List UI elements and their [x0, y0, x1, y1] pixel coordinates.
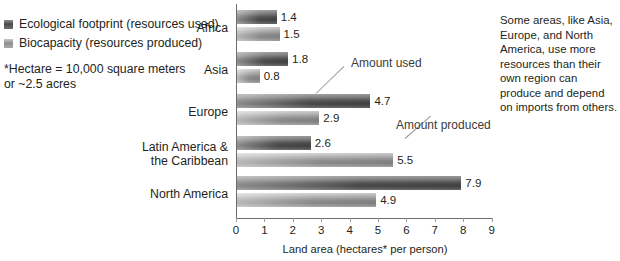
category-label: North America — [78, 187, 228, 201]
bar-resources-used: 1.8 — [237, 52, 288, 66]
bar-value-label: 0.8 — [264, 70, 280, 82]
callout-amount-used: Amount used — [351, 56, 422, 70]
x-axis-tick-label: 6 — [403, 224, 409, 236]
x-axis-tick — [293, 218, 294, 222]
x-axis-tick-label: 2 — [290, 224, 296, 236]
x-axis-tick — [492, 218, 493, 222]
x-axis-tick-label: 3 — [318, 224, 324, 236]
category-label: Europe — [78, 105, 228, 119]
x-axis-tick — [321, 218, 322, 222]
x-axis-tick-label: 7 — [432, 224, 438, 236]
bar-resources-produced: 1.5 — [237, 27, 280, 41]
callout-amount-produced: Amount produced — [396, 118, 491, 132]
x-axis-tick-label: 5 — [375, 224, 381, 236]
bar-resources-produced: 2.9 — [237, 111, 319, 125]
bar-value-label: 1.8 — [292, 53, 308, 65]
x-axis-tick — [236, 218, 237, 222]
bar-resources-produced: 4.9 — [237, 193, 376, 207]
x-axis-tick-label: 9 — [488, 224, 494, 236]
bar-value-label: 1.4 — [281, 11, 297, 23]
bar-chart: 0123456789 Land area (hectares* per pers… — [0, 0, 510, 261]
bar-value-label: 7.9 — [465, 177, 481, 189]
bar-resources-used: 1.4 — [237, 10, 277, 24]
bar-value-label: 4.7 — [374, 95, 390, 107]
x-axis-tick-label: 1 — [261, 224, 267, 236]
x-axis-tick — [350, 218, 351, 222]
x-axis-tick — [378, 218, 379, 222]
plot-area: Africa1.41.5Asia1.80.8Europe4.72.9Latin … — [236, 4, 494, 218]
bar-value-label: 2.6 — [315, 137, 331, 149]
bar-resources-used: 2.6 — [237, 136, 311, 150]
x-axis-line — [236, 218, 493, 219]
bar-value-label: 2.9 — [323, 112, 339, 124]
x-axis-tick-label: 8 — [460, 224, 466, 236]
x-axis-title: Land area (hectares* per person) — [236, 243, 494, 255]
bar-resources-used: 4.7 — [237, 94, 370, 108]
bar-value-label: 1.5 — [284, 28, 300, 40]
category-label: Latin America & the Caribbean — [78, 140, 228, 168]
x-axis-tick — [463, 218, 464, 222]
category-label: Africa — [78, 21, 228, 35]
side-note-text: Some areas, like Asia, Europe, and North… — [500, 13, 618, 115]
bar-resources-produced: 5.5 — [237, 153, 393, 167]
x-axis-tick-label: 4 — [346, 224, 352, 236]
category-label: Asia — [78, 63, 228, 77]
x-axis-tick — [435, 218, 436, 222]
bar-resources-used: 7.9 — [237, 176, 461, 190]
bar-value-label: 4.9 — [380, 194, 396, 206]
x-axis-tick-label: 0 — [233, 224, 239, 236]
bar-resources-produced: 0.8 — [237, 69, 260, 83]
x-axis-tick — [264, 218, 265, 222]
x-axis-tick — [406, 218, 407, 222]
bar-value-label: 5.5 — [397, 154, 413, 166]
